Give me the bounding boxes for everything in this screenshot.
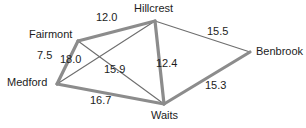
edge-weight-hillcrest-waits: 12.4	[156, 58, 177, 69]
node-label-hillcrest: Hillcrest	[134, 3, 173, 14]
node-label-benbrook: Benbrook	[256, 46, 303, 57]
node-label-fairmont: Fairmont	[29, 29, 72, 40]
edge-weight-medford-waits: 16.7	[90, 95, 111, 106]
graph-edge-fairmont-hillcrest	[78, 21, 155, 41]
edge-weight-fairmont-medford: 7.5	[37, 50, 52, 61]
edge-weight-waits-benbrook: 15.3	[205, 80, 226, 91]
edge-weight-fairmont-hillcrest: 12.0	[96, 12, 117, 23]
weighted-graph-diagram: 12.07.512.415.316.718.015.915.5Hillcrest…	[0, 0, 306, 128]
edge-weight-medford-hillcrest: 18.0	[60, 54, 81, 65]
edge-weight-hillcrest-benbrook: 15.5	[207, 26, 228, 37]
graph-edge-hillcrest-benbrook	[155, 21, 250, 52]
node-label-waits: Waits	[151, 110, 178, 121]
edge-weight-fairmont-waits: 15.9	[104, 64, 125, 75]
node-label-medford: Medford	[7, 77, 47, 88]
